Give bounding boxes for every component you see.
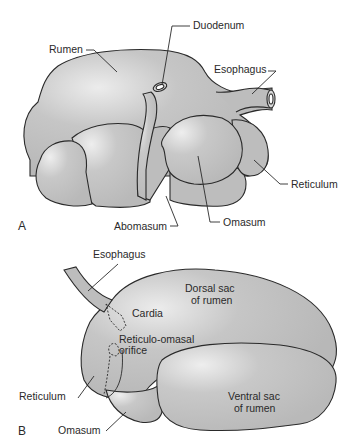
panel-label-a: A (18, 219, 26, 233)
label-omasum-a: Omasum (223, 216, 266, 228)
label-rumen-a: Rumen (49, 43, 83, 55)
panel-label-b: B (18, 424, 26, 438)
rumen-caudal-lobe-a (36, 141, 92, 206)
label-reticulo-omasal-line2: orifice (119, 344, 147, 356)
panel-a: Rumen Duodenum Esophagus Reticulum Omasu… (18, 19, 338, 233)
panel-b: Esophagus Cardia Dorsal sac of rumen Ret… (18, 248, 336, 438)
omasum-a-shape (161, 115, 242, 184)
label-reticulum-b: Reticulum (19, 390, 66, 402)
leader-omasum-b (106, 412, 126, 431)
label-ventral-sac-line1: Ventral sac (228, 390, 280, 402)
label-reticulum-a: Reticulum (291, 178, 338, 190)
esophagus-lumen (269, 94, 273, 104)
label-dorsal-sac-line2: of rumen (191, 294, 233, 306)
ventral-sac-shape (157, 343, 336, 431)
label-omasum-b: Omasum (58, 424, 101, 436)
esophagus-b-shape (64, 267, 112, 312)
label-cardia: Cardia (132, 307, 163, 319)
label-duodenum-a: Duodenum (193, 19, 245, 31)
label-ventral-sac-line2: of rumen (234, 402, 276, 414)
leader-esophagus-b (88, 264, 118, 291)
label-esophagus-a: Esophagus (214, 63, 267, 75)
label-esophagus-b: Esophagus (93, 248, 146, 260)
label-dorsal-sac-line1: Dorsal sac (185, 282, 235, 294)
ruminant-stomach-figure: Rumen Duodenum Esophagus Reticulum Omasu… (0, 0, 355, 446)
label-abomasum-a: Abomasum (114, 220, 167, 232)
